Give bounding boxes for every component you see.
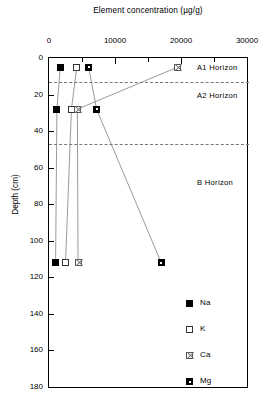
legend-label: Mg [200,376,212,385]
data-point-na [53,106,60,113]
x-tick-mark [214,58,215,62]
y-tick-mark [49,95,54,96]
y-tick-label: 40 [17,126,43,135]
data-point-ca [75,259,82,266]
x-tick-label: 20000 [158,36,204,45]
y-tick-mark [49,350,54,351]
data-point-na [57,64,64,71]
y-tick-mark [49,168,54,169]
x-tick-label: 0 [26,36,72,45]
chart-title: Element concentration (µg/g) [48,6,248,15]
data-point-mg [93,106,100,113]
data-point-na [52,259,59,266]
y-tick-label: 60 [17,163,43,172]
legend-marker-k [186,326,193,333]
x-tick-label: 30000 [224,36,269,45]
y-tick-label: 0 [17,53,43,62]
x-tick-mark [115,58,116,64]
horizon-label: A1 Horizon [197,63,238,72]
soil-element-concentration-chart: Element concentration (µg/g) Depth (cm) … [0,0,269,404]
legend-marker-ca [186,352,193,359]
series-line-k [66,67,77,263]
x-tick-mark [82,58,83,62]
legend-item-na: Na [186,300,248,307]
y-tick-label: 120 [17,272,43,281]
horizon-divider-line [49,82,249,83]
y-tick-label: 160 [17,345,43,354]
y-tick-mark [49,314,54,315]
data-point-mg [158,259,165,266]
horizon-divider-line [49,144,249,145]
legend-label: Na [200,298,211,307]
series-line-na [56,67,61,263]
series-line-mg [89,67,162,263]
chart-legend: NaKCaMg [186,300,248,388]
x-tick-mark [148,58,149,62]
legend-label: Ca [200,350,211,359]
y-tick-mark [49,241,54,242]
y-tick-mark [49,204,54,205]
x-tick-label: 10000 [92,36,138,45]
series-line-ca [77,67,177,263]
y-tick-mark [49,277,54,278]
y-tick-label: 20 [17,90,43,99]
legend-item-mg: Mg [186,378,248,385]
y-tick-label: 140 [17,309,43,318]
legend-marker-na [186,300,193,307]
y-tick-label: 100 [17,236,43,245]
y-tick-label: 180 [17,382,43,391]
y-tick-mark [49,131,54,132]
horizon-label: A2 Horizon [197,91,238,100]
legend-marker-mg [186,378,193,385]
legend-label: K [200,324,206,333]
data-point-k [73,64,80,71]
data-point-ca [74,106,81,113]
data-point-mg [85,64,92,71]
y-tick-label: 80 [17,199,43,208]
legend-item-k: K [186,326,248,333]
legend-item-ca: Ca [186,352,248,359]
data-point-k [62,259,69,266]
horizon-label: B Horizon [197,178,233,187]
data-point-ca [174,64,181,71]
